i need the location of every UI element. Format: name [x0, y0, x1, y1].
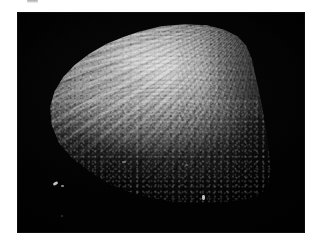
bright-fleck [122, 161, 126, 163]
bright-fleck [61, 185, 64, 187]
page-canvas [0, 0, 323, 246]
specimen-photograph [17, 12, 305, 233]
cropped-mark-artifact [27, 0, 38, 3]
bright-fleck [61, 215, 63, 217]
bright-fleck [185, 164, 188, 166]
bright-fleck [202, 195, 205, 200]
